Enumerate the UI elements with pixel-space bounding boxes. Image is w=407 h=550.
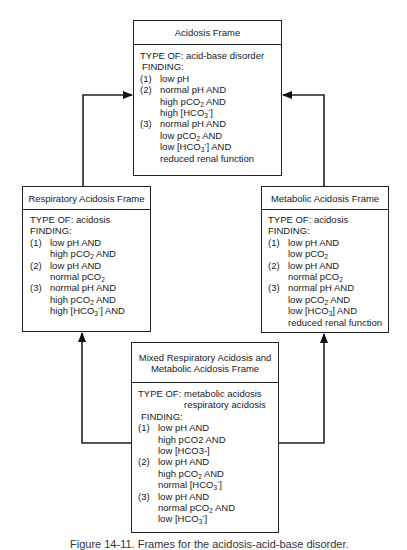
frame-title: Acidosis Frame bbox=[134, 21, 281, 45]
frame-title: Mixed Respiratory Acidosis and Metabolic… bbox=[132, 343, 278, 383]
mixed-acidosis-frame: Mixed Respiratory Acidosis and Metabolic… bbox=[131, 342, 279, 533]
finding-1: (1)low pH ANDhigh pCO2 ANDlow [HCO3-] bbox=[138, 422, 272, 456]
finding-1: (1)low pH ANDlow pCO2 bbox=[268, 237, 382, 260]
frame-title: Respiratory Acidosis Frame bbox=[23, 187, 150, 210]
finding-3: (3)normal pH ANDlow pCO2 ANDlow [HCO3] A… bbox=[268, 282, 382, 328]
finding-1: (1)low pH ANDhigh pCO2 AND bbox=[30, 237, 144, 260]
type-of: TYPE OF: acid-base disorder bbox=[140, 50, 275, 61]
type-of: TYPE OF: metabolic acidosisrespiratory a… bbox=[138, 388, 272, 411]
finding-label: FINDING: bbox=[138, 411, 272, 422]
finding-1: (1)low pH bbox=[140, 73, 275, 84]
finding-3: (3)normal pH ANDhigh pCO2 ANDhigh [HCO3-… bbox=[30, 282, 144, 316]
metabolic-acidosis-frame: Metabolic Acidosis Frame TYPE OF: acidos… bbox=[261, 186, 389, 333]
respiratory-acidosis-frame: Respiratory Acidosis Frame TYPE OF: acid… bbox=[22, 186, 151, 332]
finding-2: (2)low pH ANDhigh pCO2 ANDnormal [HCO3-] bbox=[138, 456, 272, 490]
finding-3: (3)low pH ANDnormal pCO2 ANDlow [HCO3-] bbox=[138, 491, 272, 525]
finding-label: FINDING: bbox=[140, 61, 275, 72]
acidosis-frame: Acidosis Frame TYPE OF: acid-base disord… bbox=[133, 20, 282, 176]
type-of: TYPE OF: acidosis bbox=[30, 214, 144, 225]
finding-3: (3)normal pH ANDlow pCO2 ANDlow [HCO3-] … bbox=[140, 118, 275, 164]
finding-2: (2)low pH ANDnormal pCO2 bbox=[30, 260, 144, 283]
frame-title: Metabolic Acidosis Frame bbox=[262, 187, 388, 210]
finding-label: FINDING: bbox=[30, 225, 144, 236]
finding-label: FINDING: bbox=[268, 225, 382, 236]
finding-2: (2)low pH ANDnormal pCO2 bbox=[268, 260, 382, 283]
finding-2: (2)normal pH ANDhigh pCO2 ANDhigh [HCO3-… bbox=[140, 84, 275, 118]
type-of: TYPE OF: acidosis bbox=[268, 214, 382, 225]
figure-caption: Figure 14-11. Frames for the acidosis-ac… bbox=[70, 538, 349, 550]
